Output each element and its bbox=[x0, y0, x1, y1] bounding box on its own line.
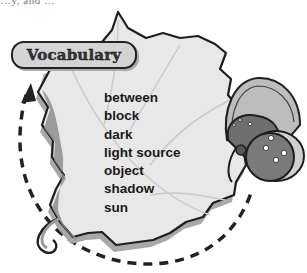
vocabulary-word: shadow bbox=[104, 180, 181, 198]
vocabulary-word: dark bbox=[104, 126, 181, 144]
vocabulary-word: sun bbox=[104, 199, 181, 217]
vocabulary-heading-badge: Vocabulary bbox=[11, 41, 137, 69]
vocabulary-title: Vocabulary bbox=[27, 46, 122, 64]
vocabulary-word: object bbox=[104, 162, 181, 180]
vocabulary-word: light source bbox=[104, 144, 181, 162]
vocabulary-word: between bbox=[104, 89, 181, 107]
vocabulary-word-list: between block dark light source object s… bbox=[104, 89, 181, 217]
vocabulary-word: block bbox=[104, 107, 181, 125]
